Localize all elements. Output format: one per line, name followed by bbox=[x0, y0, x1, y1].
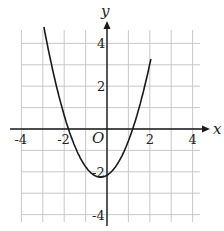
origin-label: O bbox=[92, 129, 104, 147]
y-axis-label: y bbox=[100, 2, 110, 20]
grid-lines bbox=[21, 30, 200, 222]
chart-svg: -4-224 42-2-4 x y O bbox=[0, 0, 224, 231]
x-tick-label: 4 bbox=[189, 132, 197, 147]
x-tick-labels: -4-224 bbox=[14, 132, 196, 147]
x-tick-label: -4 bbox=[14, 132, 27, 147]
y-axis-arrow-icon bbox=[104, 21, 111, 29]
y-tick-label: -4 bbox=[92, 208, 105, 223]
x-tick-label: 2 bbox=[146, 132, 154, 147]
x-tick-label: -2 bbox=[57, 132, 70, 147]
y-tick-label: 4 bbox=[97, 36, 105, 51]
y-tick-label: 2 bbox=[97, 79, 105, 94]
x-axis-label: x bbox=[213, 120, 222, 138]
x-axis-arrow-icon bbox=[202, 126, 210, 133]
y-tick-label: -2 bbox=[92, 165, 105, 180]
